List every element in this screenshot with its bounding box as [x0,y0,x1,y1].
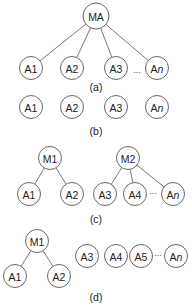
node-a2: A2 [61,57,84,80]
panel-caption-d: (d) [90,291,103,303]
ellipsis: ... [133,65,141,75]
agent-hierarchy-diagram: MAA1A2A3An...(a)A1A2A3An(b)M1A1A2M2A3A4A… [0,0,192,307]
node-a3: A3 [105,96,128,119]
node-label: A2 [53,271,66,283]
node-label: A2 [66,189,79,201]
panel-d: M1A1A2A3A4A5An...(d) [4,230,188,304]
node-label: M1 [43,153,58,165]
node-label: A1 [25,102,38,114]
ellipsis: ... [149,186,157,196]
node-a1: A1 [18,183,41,206]
node-label: M1 [30,236,45,248]
node-label: A4 [110,251,123,263]
edge-M1-A2 [43,251,53,267]
node-an: An [165,245,188,268]
node-a1: A1 [20,96,43,119]
node-a3: A3 [76,245,99,268]
panel-c: M1A1A2M2A3A4An...(c) [18,147,185,226]
node-label: A3 [110,63,123,75]
node-a3: A3 [94,183,117,206]
node-label: M2 [121,153,136,165]
node-label: A5 [135,251,148,263]
node-a4: A4 [124,183,147,206]
panel-caption-b: (b) [90,125,103,137]
node-a2: A2 [61,96,84,119]
edge-M1-A2 [56,168,66,184]
ellipsis: ... [154,248,162,258]
node-label: A3 [81,251,94,263]
panel-a: MAA1A2A3An...(a) [20,3,169,93]
node-a1: A1 [4,265,27,288]
node-a5: A5 [130,245,153,268]
edge-M2-A3 [111,168,122,185]
node-label: A1 [9,271,22,283]
node-label: A4 [129,189,142,201]
edge-MA-An [106,24,148,60]
node-a4: A4 [105,245,128,268]
node-a1: A1 [20,57,43,80]
node-label: A2 [66,102,79,114]
edge-MA-A1 [40,24,86,61]
node-ma: MA [83,3,109,29]
node-label: An [151,63,164,75]
node-label: MA [88,11,104,23]
node-m1: M1 [26,230,49,253]
node-m2: M2 [117,147,140,170]
node-label: An [170,251,183,263]
node-a2: A2 [61,183,84,206]
panel-caption-a: (a) [90,81,103,93]
edge-M2-A4 [130,169,133,182]
node-label: A3 [110,102,123,114]
node-an: An [146,96,169,119]
panel-caption-c: (c) [90,213,102,225]
node-a3: A3 [105,57,128,80]
node-an: An [146,57,169,80]
edge-M1-A1 [21,251,31,267]
panel-b: A1A2A3An(b) [20,96,169,138]
node-label: A2 [66,63,79,75]
node-label: A3 [99,189,112,201]
node-m1: M1 [39,147,62,170]
edge-MA-A3 [101,28,112,57]
node-label: An [167,189,180,201]
node-label: A1 [23,189,36,201]
node-an: An [162,183,185,206]
node-label: An [151,102,164,114]
node-label: A1 [25,63,38,75]
node-a2: A2 [48,265,71,288]
edge-M2-An [137,165,164,187]
edge-MA-A2 [77,28,91,58]
edge-M1-A1 [35,168,44,184]
